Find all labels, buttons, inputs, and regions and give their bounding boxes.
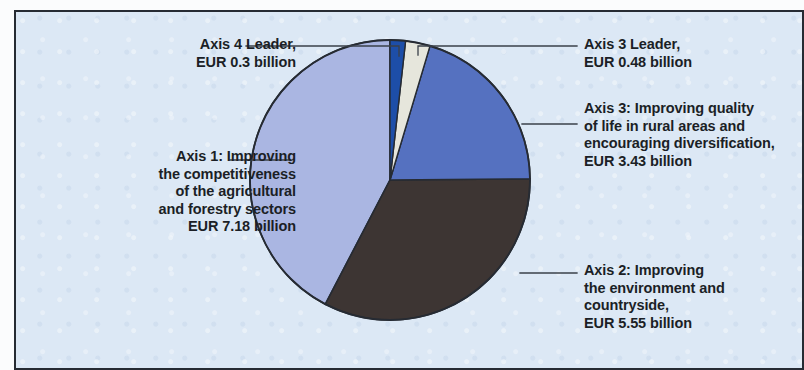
callout-label-axis-1: Axis 1: Improving the competitiveness of… [46, 148, 296, 236]
callout-label-axis-2: Axis 2: Improving the environment and co… [584, 262, 774, 332]
callout-label-axis-3-leader: Axis 3 Leader, EUR 0.48 billion [584, 36, 774, 71]
callout-label-axis-4-leader: Axis 4 Leader, EUR 0.3 billion [88, 36, 296, 71]
callout-label-axis-3: Axis 3: Improving quality of life in rur… [584, 100, 780, 170]
